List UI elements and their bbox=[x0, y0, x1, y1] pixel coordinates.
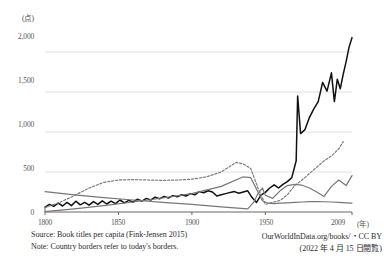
chart-figure: (点) 2,000 1,500 1,000 500 0 1800 1850 19… bbox=[0, 0, 384, 260]
caption-attribution: OurWorldInData.org/books/・CC BY bbox=[262, 230, 382, 241]
caption-source: Source: Book titles per capita (Fink-Jen… bbox=[31, 230, 187, 239]
caption-accessed: (2022 年 4 月 15 日閲覧) bbox=[300, 242, 382, 253]
series-gray-solid-ascending bbox=[45, 177, 352, 212]
series-black-solid bbox=[45, 38, 352, 208]
chart-plot-area bbox=[0, 0, 384, 260]
caption-note: Note: Country borders refer to today's b… bbox=[31, 242, 178, 251]
series-gray-dashed bbox=[45, 142, 343, 208]
chart-caption: Source: Book titles per capita (Fink-Jen… bbox=[0, 228, 384, 260]
